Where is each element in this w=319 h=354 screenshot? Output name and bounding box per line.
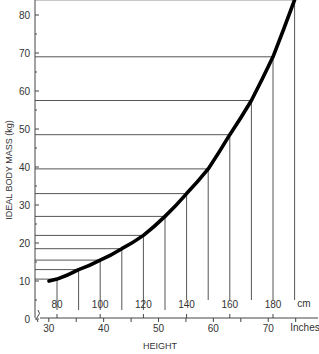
x-tick-label-cm: 80 [51,299,63,310]
y-axis-title: IDEAL BODY MASS (kg) [4,120,14,220]
x-unit-cm-label: cm [297,298,310,309]
y-tick-label: 80 [19,10,31,21]
x-tick-label-inches: 70 [263,323,275,334]
x-tick-label-cm: 120 [135,299,152,310]
y-tick-label: 20 [19,238,31,249]
y-tick-label: 60 [19,86,31,97]
x-tick-label-cm: 100 [92,299,109,310]
x-tick-label-inches: 30 [43,323,55,334]
y-tick-label: 10 [19,276,31,287]
x-tick-label-cm: 180 [265,299,282,310]
y-tick-label: 30 [19,200,31,211]
x-tick-label-inches: 40 [98,323,110,334]
y-tick-label: 50 [19,124,31,135]
x-axis-title: HEIGHT [143,341,178,351]
x-unit-inches-label: Inches [290,322,319,333]
x-tick-label-cm: 160 [221,299,238,310]
y-tick-label: 0 [24,314,30,325]
ideal-body-mass-chart: 01020304050607080 8010012014016018030405… [0,0,319,354]
x-tick-label-inches: 60 [208,323,220,334]
axis-break-icon [37,310,40,322]
y-tick-label: 70 [19,48,31,59]
y-tick-label: 40 [19,162,31,173]
x-axis-ticks: 801001201401601803040506070 [43,299,295,334]
x-tick-label-inches: 50 [153,323,165,334]
body-mass-curve [49,0,298,281]
x-tick-label-cm: 140 [178,299,195,310]
